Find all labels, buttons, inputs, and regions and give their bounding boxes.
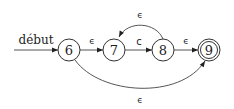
- svg-text:6: 6: [65, 43, 73, 58]
- svg-text:ϵ: ϵ: [137, 10, 143, 20]
- svg-text:7: 7: [110, 43, 118, 58]
- state-8: 8: [152, 39, 174, 61]
- svg-text:ϵ: ϵ: [89, 36, 95, 46]
- svg-text:ϵ: ϵ: [137, 95, 143, 105]
- state-9-accepting: 9: [198, 39, 220, 61]
- svg-text:c: c: [136, 36, 142, 47]
- edge-7-8: c: [125, 36, 152, 50]
- svg-text:9: 9: [205, 43, 213, 58]
- start-arrow: début: [14, 33, 58, 50]
- edge-6-9: ϵ: [75, 60, 205, 105]
- state-7: 7: [103, 39, 125, 61]
- svg-text:ϵ: ϵ: [183, 36, 189, 46]
- svg-text:8: 8: [159, 43, 167, 58]
- edge-6-7: ϵ: [80, 36, 103, 50]
- edge-8-7: ϵ: [119, 10, 163, 39]
- start-label: début: [18, 33, 53, 47]
- nfa-diagram: début ϵ c ϵ ϵ ϵ 6 7 8 9: [0, 0, 234, 109]
- edge-8-9: ϵ: [174, 36, 198, 50]
- state-6: 6: [58, 39, 80, 61]
